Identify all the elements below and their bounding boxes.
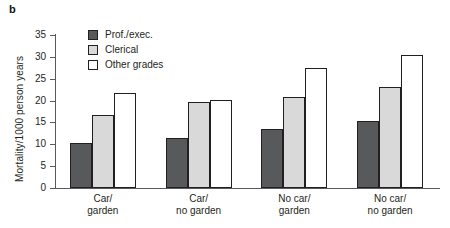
- x-category-label: No car/no garden: [342, 193, 438, 217]
- legend-item: Other grades: [88, 58, 163, 72]
- bar: [70, 143, 92, 188]
- bar: [283, 97, 305, 188]
- bar: [401, 55, 423, 188]
- y-tick-label: 0: [24, 183, 46, 193]
- legend-swatch-other-grades: [88, 60, 98, 70]
- bar: [92, 115, 114, 188]
- legend-label: Prof./exec.: [105, 30, 153, 40]
- y-tick-label: 25: [24, 74, 46, 84]
- x-category-label: Car/no garden: [151, 193, 247, 217]
- x-axis-line: [55, 188, 440, 189]
- bar: [357, 121, 379, 188]
- bar: [379, 87, 401, 188]
- x-category-label: No car/garden: [247, 193, 343, 217]
- x-category-label: Car/garden: [55, 193, 151, 217]
- bar-group: [261, 35, 327, 188]
- figure-panel-b: b Mortality/1000 person years 0510152025…: [0, 0, 450, 228]
- bar: [261, 129, 283, 188]
- legend-swatch-prof-exec: [88, 30, 98, 40]
- legend-label: Other grades: [105, 60, 163, 70]
- y-tick-label: 30: [24, 52, 46, 62]
- legend-label: Clerical: [105, 45, 138, 55]
- panel-letter: b: [9, 4, 16, 15]
- legend-swatch-clerical: [88, 45, 98, 55]
- bar-group: [166, 35, 232, 188]
- y-tick-label: 20: [24, 96, 46, 106]
- bar: [166, 138, 188, 188]
- bar: [188, 102, 210, 188]
- y-tick-label: 5: [24, 161, 46, 171]
- legend-item: Clerical: [88, 43, 163, 57]
- y-tick-label: 15: [24, 117, 46, 127]
- bar-group: [357, 35, 423, 188]
- y-tick-mark: [50, 188, 55, 189]
- legend: Prof./exec. Clerical Other grades: [88, 28, 163, 73]
- y-tick-label: 35: [24, 30, 46, 40]
- bar: [114, 93, 136, 188]
- y-tick-label: 10: [24, 139, 46, 149]
- bar: [305, 68, 327, 188]
- bar: [210, 100, 232, 188]
- legend-item: Prof./exec.: [88, 28, 163, 42]
